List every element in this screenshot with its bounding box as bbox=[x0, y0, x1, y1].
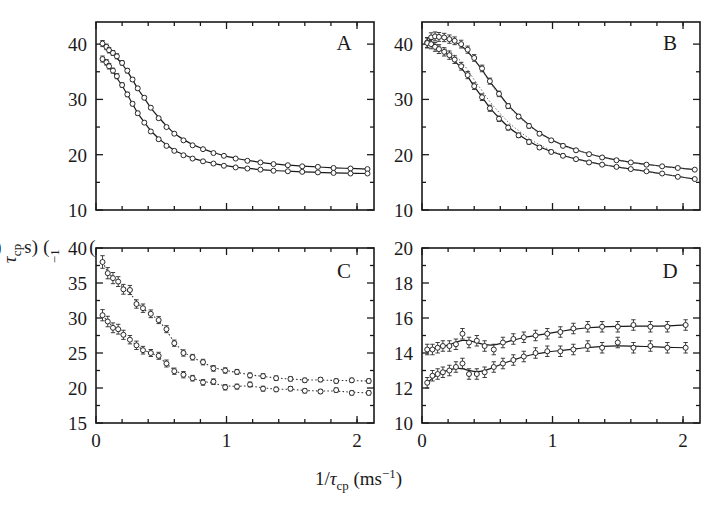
x-axis-label-unit-close: ) bbox=[396, 468, 402, 489]
data-point bbox=[331, 165, 336, 170]
data-point bbox=[274, 376, 279, 381]
data-point bbox=[447, 368, 452, 373]
data-point bbox=[114, 74, 119, 79]
data-point bbox=[447, 344, 452, 349]
data-point bbox=[675, 174, 680, 179]
data-point bbox=[148, 351, 153, 356]
data-point bbox=[261, 374, 266, 379]
data-point bbox=[628, 167, 633, 172]
data-point bbox=[211, 366, 216, 371]
y-axis-label: Reff(1/τcp) (s−1) bbox=[2, 120, 42, 380]
relaxation-dispersion-figure: 10203040A10203040B152025303540012C101214… bbox=[0, 0, 717, 515]
data-point bbox=[110, 325, 115, 330]
data-point bbox=[460, 361, 465, 366]
data-point bbox=[130, 77, 135, 82]
data-point bbox=[318, 389, 323, 394]
panel-plot-area bbox=[100, 256, 371, 396]
data-point bbox=[234, 384, 239, 389]
data-point bbox=[631, 345, 636, 350]
data-point bbox=[472, 55, 477, 60]
data-point bbox=[585, 324, 590, 329]
data-point bbox=[148, 129, 153, 134]
data-point bbox=[121, 287, 126, 292]
fit-curve bbox=[427, 37, 695, 169]
data-point bbox=[261, 386, 266, 391]
data-point bbox=[430, 347, 435, 352]
data-point bbox=[285, 163, 290, 168]
data-point bbox=[600, 324, 605, 329]
panel-c: 152025303540012C bbox=[68, 238, 374, 451]
data-point bbox=[533, 351, 538, 356]
data-point bbox=[516, 133, 521, 138]
data-point bbox=[181, 153, 186, 158]
data-point bbox=[271, 168, 276, 173]
data-point bbox=[181, 372, 186, 377]
data-point bbox=[164, 361, 169, 366]
data-point bbox=[447, 53, 452, 58]
data-point bbox=[648, 324, 653, 329]
data-point bbox=[201, 159, 206, 164]
fit-curve bbox=[427, 346, 685, 383]
data-point bbox=[349, 378, 354, 383]
panel-label: B bbox=[663, 31, 677, 55]
data-point bbox=[587, 160, 592, 165]
data-point bbox=[156, 137, 161, 142]
data-point bbox=[614, 164, 619, 169]
data-point bbox=[134, 343, 139, 348]
y-tick-label: 14 bbox=[394, 343, 414, 364]
data-point bbox=[506, 125, 511, 130]
data-point bbox=[453, 365, 458, 370]
data-point bbox=[660, 164, 665, 169]
data-point bbox=[271, 162, 276, 167]
y-tick-label: 10 bbox=[394, 200, 413, 221]
data-point bbox=[233, 165, 238, 170]
data-point bbox=[480, 95, 485, 100]
panel-label: D bbox=[662, 259, 677, 283]
data-point bbox=[190, 355, 195, 360]
data-point bbox=[537, 145, 542, 150]
data-point bbox=[466, 372, 471, 377]
series-upper-field bbox=[100, 41, 370, 172]
data-point bbox=[665, 324, 670, 329]
x-axis-label-unit-open: (ms bbox=[349, 468, 382, 489]
data-point bbox=[348, 171, 353, 176]
series-upper-field bbox=[425, 320, 688, 355]
data-point bbox=[172, 341, 177, 346]
data-point bbox=[521, 335, 526, 340]
data-point bbox=[148, 311, 153, 316]
data-point bbox=[288, 376, 293, 381]
data-point bbox=[140, 306, 145, 311]
y-tick-label: 20 bbox=[394, 145, 413, 166]
data-point bbox=[644, 169, 649, 174]
data-point bbox=[574, 148, 579, 153]
data-point bbox=[211, 161, 216, 166]
data-point bbox=[120, 60, 125, 65]
data-point bbox=[587, 152, 592, 157]
data-point bbox=[245, 158, 250, 163]
data-point bbox=[549, 149, 554, 154]
data-point bbox=[442, 49, 447, 54]
data-point bbox=[631, 323, 636, 328]
data-point bbox=[140, 348, 145, 353]
data-point bbox=[274, 387, 279, 392]
data-point bbox=[315, 164, 320, 169]
data-point bbox=[459, 64, 464, 69]
fit-curve bbox=[103, 262, 369, 381]
data-point bbox=[683, 323, 688, 328]
y-axis-label-tau: τ bbox=[0, 256, 20, 263]
data-point bbox=[472, 84, 477, 89]
data-point bbox=[211, 379, 216, 384]
y-tick-label: 20 bbox=[394, 238, 413, 259]
data-point bbox=[482, 370, 487, 375]
series-upper-field bbox=[425, 32, 698, 172]
data-point bbox=[692, 167, 697, 172]
y-axis-label-mid: (1/ bbox=[0, 239, 1, 261]
data-point bbox=[466, 340, 471, 345]
data-point bbox=[172, 148, 177, 153]
panel-a: 10203040A bbox=[68, 22, 374, 221]
data-point bbox=[110, 68, 115, 73]
y-tick-label: 35 bbox=[68, 273, 87, 294]
data-point bbox=[348, 166, 353, 171]
data-point bbox=[125, 92, 130, 97]
data-point bbox=[537, 131, 542, 136]
